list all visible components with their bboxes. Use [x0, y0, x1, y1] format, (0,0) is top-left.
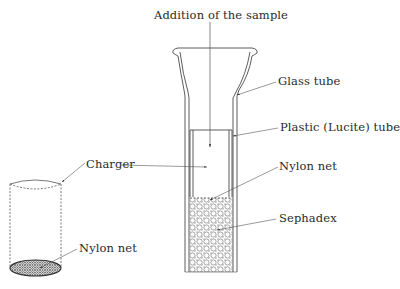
plastic-tube [190, 130, 232, 197]
nylon-net-charger [10, 260, 61, 276]
label-nylon-net-column: Nylon net [279, 161, 337, 173]
label-addition: Addition of the sample [154, 10, 288, 22]
leader-nylon-col [210, 167, 278, 200]
charger-cylinder [10, 180, 61, 276]
sephadex-bed [190, 198, 233, 272]
label-glass-tube: Glass tube [278, 76, 340, 88]
label-sephadex: Sephadex [279, 213, 337, 225]
label-plastic-tube: Plastic (Lucite) tube [280, 122, 400, 134]
label-charger: Charger [86, 159, 135, 171]
leader-charger-cyl [62, 163, 85, 182]
label-nylon-net-charger: Nylon net [79, 243, 137, 255]
leader-plastic [233, 128, 278, 136]
column [173, 48, 257, 272]
